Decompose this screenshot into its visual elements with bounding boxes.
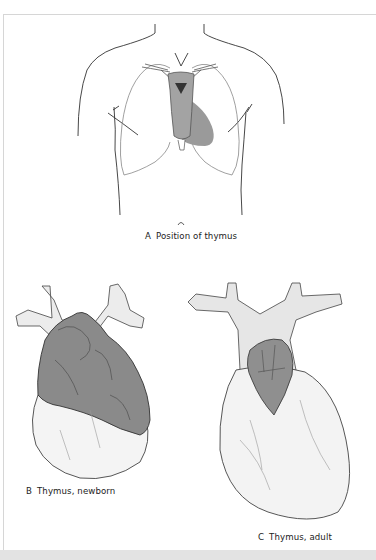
caption-panel-b: BThymus, newborn (26, 486, 115, 496)
panel-c-adult-heart-illustration (188, 283, 350, 519)
panel-a-caption-text: Position of thymus (156, 231, 237, 241)
panel-c-caption-text: Thymus, adult (269, 532, 332, 542)
caption-panel-c: CThymus, adult (258, 532, 332, 542)
panel-b-newborn-heart-illustration (16, 284, 150, 479)
panel-a-letter: A (145, 231, 151, 241)
figure-illustrations (0, 0, 376, 560)
panel-b-caption-text: Thymus, newborn (37, 486, 115, 496)
thymus-shading-a (168, 72, 214, 150)
caption-panel-a: APosition of thymus (145, 231, 237, 241)
panel-c-letter: C (258, 532, 264, 542)
panel-b-letter: B (26, 486, 32, 496)
